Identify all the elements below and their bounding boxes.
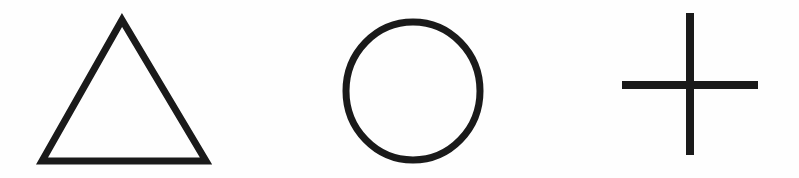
shapes-svg — [0, 0, 799, 178]
shape-illustration-canvas: Triangle Circle Plus Three black outline… — [0, 0, 799, 178]
